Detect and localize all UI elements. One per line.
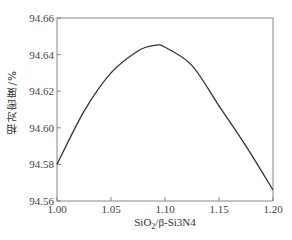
x-tick-label: 1.05 (101, 203, 121, 215)
x-tick-label: 1.00 (47, 203, 67, 215)
x-tick-label: 1.15 (209, 203, 229, 215)
x-tick-label: 1.10 (155, 203, 175, 215)
y-tick-label: 94.58 (29, 158, 54, 170)
y-tick-label: 94.64 (29, 49, 54, 61)
plot-frame (57, 18, 273, 201)
y-axis-ticks: 94.5694.5894.6094.6294.6494.66 (29, 12, 61, 207)
x-axis-ticks: 1.001.051.101.151.20 (47, 197, 283, 215)
x-axis-label: SiO2/β-Si3N4 (134, 216, 196, 231)
y-tick-label: 94.60 (29, 122, 54, 134)
density-curve (57, 45, 273, 190)
y-axis-label: 相对密度/% (4, 70, 18, 134)
y-tick-label: 94.62 (29, 85, 54, 97)
x-tick-label: 1.20 (263, 203, 283, 215)
chart: 94.5694.5894.6094.6294.6494.66 1.001.051… (0, 0, 292, 240)
y-tick-label: 94.66 (29, 12, 54, 24)
